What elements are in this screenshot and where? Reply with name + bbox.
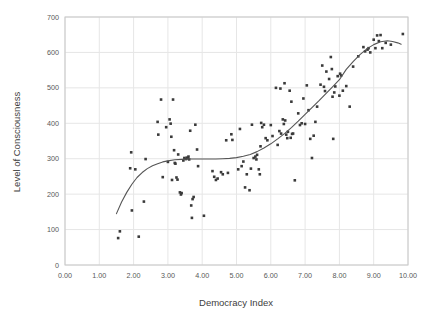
chart-canvas: 0100200300400500600700 0.001.002.003.004… bbox=[0, 0, 431, 326]
data-point bbox=[362, 46, 365, 49]
x-tick-label: 9.00 bbox=[367, 271, 381, 280]
x-tick-label: 0.00 bbox=[58, 271, 72, 280]
data-point bbox=[402, 33, 405, 36]
data-point bbox=[369, 51, 372, 54]
data-point bbox=[213, 175, 216, 178]
data-point bbox=[259, 145, 262, 148]
x-tick-label: 5.00 bbox=[230, 271, 244, 280]
data-point bbox=[292, 132, 295, 135]
data-point bbox=[189, 129, 192, 132]
data-point bbox=[283, 82, 286, 85]
data-point bbox=[239, 128, 242, 131]
data-point bbox=[168, 118, 171, 121]
data-point bbox=[161, 176, 164, 179]
data-point bbox=[278, 130, 281, 133]
data-point bbox=[323, 85, 326, 88]
x-tick-label: 8.00 bbox=[332, 271, 346, 280]
data-point bbox=[176, 178, 179, 181]
data-point bbox=[180, 192, 183, 195]
data-point bbox=[282, 118, 285, 121]
scatter-points bbox=[117, 33, 404, 240]
x-axis-title: Democracy Index bbox=[199, 297, 273, 308]
data-point bbox=[257, 168, 260, 171]
data-point bbox=[203, 214, 206, 217]
data-point bbox=[376, 34, 379, 37]
y-tick-label: 600 bbox=[47, 48, 59, 57]
data-point bbox=[331, 95, 334, 98]
data-point bbox=[316, 105, 319, 108]
data-point bbox=[134, 168, 137, 171]
data-point bbox=[266, 139, 269, 142]
data-point bbox=[288, 89, 291, 92]
y-tick-label: 700 bbox=[47, 13, 59, 22]
trend-line-path bbox=[116, 41, 401, 214]
data-point bbox=[260, 122, 263, 125]
data-point bbox=[157, 133, 160, 136]
data-point bbox=[169, 122, 172, 125]
data-point bbox=[259, 173, 262, 176]
data-point bbox=[144, 158, 147, 161]
data-point bbox=[263, 123, 266, 126]
x-tick-label: 4.00 bbox=[195, 271, 209, 280]
data-point bbox=[173, 149, 176, 152]
data-point bbox=[328, 78, 331, 81]
data-point bbox=[348, 105, 351, 108]
data-point bbox=[221, 173, 224, 176]
data-point bbox=[191, 217, 194, 220]
x-tick-label: 2.00 bbox=[127, 271, 141, 280]
x-tick-label: 1.00 bbox=[92, 271, 106, 280]
y-tick-label: 100 bbox=[47, 225, 59, 234]
data-point bbox=[290, 100, 293, 103]
x-tick-label: 6.00 bbox=[264, 271, 278, 280]
data-point bbox=[345, 85, 348, 88]
data-point bbox=[174, 162, 177, 165]
data-point bbox=[336, 75, 339, 78]
y-tick-label: 300 bbox=[47, 154, 59, 163]
data-point bbox=[197, 165, 200, 168]
data-point bbox=[275, 87, 278, 90]
data-point bbox=[216, 177, 219, 180]
data-point bbox=[283, 123, 286, 126]
data-point bbox=[325, 70, 328, 73]
data-point bbox=[117, 237, 120, 240]
data-point bbox=[137, 235, 140, 238]
data-point bbox=[300, 122, 303, 125]
data-point bbox=[309, 138, 312, 141]
data-point bbox=[245, 173, 248, 176]
data-point bbox=[240, 165, 243, 168]
data-point bbox=[244, 186, 247, 189]
data-point bbox=[143, 200, 146, 203]
x-tick-label: 7.00 bbox=[298, 271, 312, 280]
data-point bbox=[381, 47, 384, 50]
data-point bbox=[271, 135, 274, 138]
data-point bbox=[302, 97, 305, 100]
data-point bbox=[237, 168, 240, 171]
scatter-chart: 0100200300400500600700 0.001.002.003.004… bbox=[0, 0, 431, 326]
trend-line bbox=[116, 41, 401, 214]
data-point bbox=[319, 83, 322, 86]
y-tick-label: 0 bbox=[55, 261, 59, 270]
y-axis-title: Level of Consciousness bbox=[11, 92, 22, 193]
data-point bbox=[312, 134, 315, 137]
data-point bbox=[330, 56, 333, 59]
x-tick-label: 10.00 bbox=[399, 271, 417, 280]
data-point bbox=[280, 132, 283, 135]
data-point bbox=[352, 65, 355, 68]
data-point bbox=[331, 68, 334, 71]
data-point bbox=[192, 196, 195, 199]
data-point bbox=[332, 138, 335, 141]
y-tick-label: 200 bbox=[47, 190, 59, 199]
data-point bbox=[156, 121, 159, 124]
grid-lines bbox=[65, 17, 408, 265]
data-point bbox=[285, 133, 288, 136]
data-point bbox=[306, 84, 309, 87]
data-point bbox=[270, 124, 273, 127]
data-point bbox=[196, 148, 199, 151]
data-point bbox=[177, 153, 180, 156]
data-point bbox=[390, 43, 393, 46]
data-point bbox=[342, 89, 345, 92]
data-point bbox=[384, 42, 387, 45]
data-point bbox=[276, 144, 279, 147]
data-point bbox=[211, 170, 214, 173]
data-point bbox=[231, 139, 234, 142]
